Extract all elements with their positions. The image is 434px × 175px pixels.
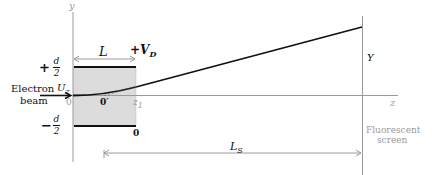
- beam-velocity-label: Uz: [57, 83, 70, 96]
- top-plate-sign: +: [39, 61, 50, 74]
- bottom-plate-sign: −: [41, 119, 52, 132]
- fluorescent-screen-label-1: Fluorescent: [366, 126, 420, 135]
- y-axis-label: y: [69, 1, 75, 11]
- bottom-plate-position: d2: [53, 115, 60, 136]
- electron-beam-label-1: Electron: [11, 84, 54, 94]
- exit-point-label: z1: [133, 98, 143, 110]
- origin-label: 0: [66, 98, 72, 107]
- bottom-plate-potential: 0: [133, 129, 139, 138]
- straight-trajectory: [136, 27, 362, 87]
- fluorescent-screen-label-2: screen: [377, 136, 407, 145]
- midpoint-label: 0′: [100, 98, 109, 107]
- screen-distance-label: LS: [230, 141, 243, 155]
- top-plate-position: d2: [53, 57, 60, 78]
- z-axis-label: z: [390, 98, 395, 108]
- plate-voltage-label: +VD: [130, 44, 156, 58]
- deflection-label: Y: [367, 53, 374, 63]
- plate-length-label: L: [99, 45, 108, 58]
- electron-beam-label-2: beam: [20, 96, 48, 106]
